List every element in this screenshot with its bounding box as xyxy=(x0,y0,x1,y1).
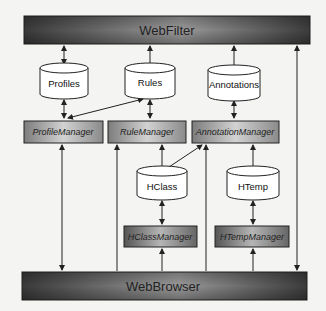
store-annotations-label: Annotations xyxy=(209,79,259,90)
rule-manager: RuleManager xyxy=(108,121,186,143)
hclass-manager: HClassManager xyxy=(124,226,197,247)
store-hclass-label: HClass xyxy=(147,181,178,192)
htemp-manager: HTempManager xyxy=(215,226,289,247)
webfilter-label: WebFilter xyxy=(139,23,195,38)
profile-manager-label: ProfileManager xyxy=(32,127,94,137)
store-hclass: HClass xyxy=(137,166,187,200)
architecture-diagram: WebFilter Profiles Rules Annotations Pro… xyxy=(0,0,326,311)
store-htemp: HTemp xyxy=(227,166,279,200)
webfilter-bar: WebFilter xyxy=(24,16,310,44)
htemp-manager-label: HTempManager xyxy=(220,232,285,242)
store-profiles-label: Profiles xyxy=(48,78,80,89)
store-profiles: Profiles xyxy=(40,63,88,99)
profile-manager: ProfileManager xyxy=(24,121,103,143)
hclass-manager-label: HClassManager xyxy=(128,232,194,242)
store-rules: Rules xyxy=(125,63,175,99)
store-rules-label: Rules xyxy=(138,77,163,88)
webbrowser-label: WebBrowser xyxy=(126,279,201,294)
annotation-manager-label: AnnotationManager xyxy=(195,127,276,137)
annotation-manager: AnnotationManager xyxy=(192,121,279,143)
rule-manager-label: RuleManager xyxy=(120,127,175,137)
store-annotations: Annotations xyxy=(208,65,260,101)
webbrowser-bar: WebBrowser xyxy=(22,272,307,300)
store-htemp-label: HTemp xyxy=(238,181,268,192)
